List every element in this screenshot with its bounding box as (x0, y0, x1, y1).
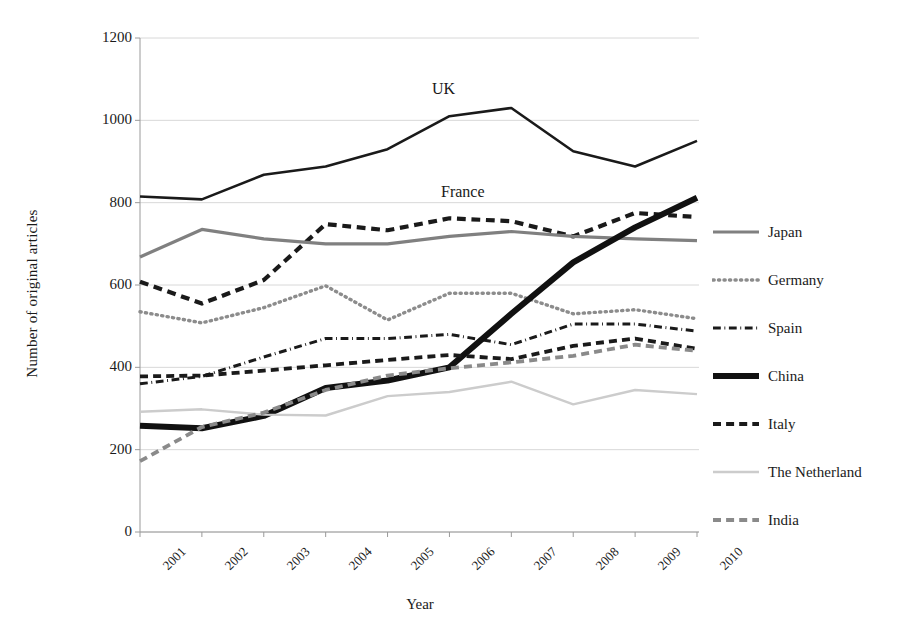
legend-item[interactable]: Japan (712, 208, 908, 256)
legend-item[interactable]: Italy (712, 400, 908, 448)
annotation-uk: UK (432, 80, 455, 98)
y-axis-tick-labels: 020040060080010001200 (70, 0, 132, 643)
series-line-japan (140, 229, 697, 257)
legend-label: India (768, 512, 799, 529)
legend-line-icon (712, 321, 760, 335)
line-chart: Number of original articles 020040060080… (0, 0, 910, 643)
legend-line-icon (712, 513, 760, 527)
legend-label: China (768, 368, 804, 385)
legend-line-icon (712, 417, 760, 431)
legend-label: Spain (768, 320, 802, 337)
y-tick-label: 1000 (78, 111, 132, 128)
y-tick-label: 400 (78, 358, 132, 375)
legend-item[interactable]: The Netherland (712, 448, 908, 496)
legend-line-icon (712, 273, 760, 287)
series-line-india (140, 345, 697, 462)
legend-item[interactable]: India (712, 496, 908, 544)
annotation-france: France (441, 183, 485, 201)
chart-legend: JapanGermanySpainChinaItalyThe Netherlan… (712, 208, 908, 544)
legend-line-icon (712, 465, 760, 479)
series-line-uk (140, 108, 697, 199)
legend-item[interactable]: Germany (712, 256, 908, 304)
series-line-germany (140, 286, 697, 323)
legend-label: Germany (768, 272, 824, 289)
legend-line-icon (712, 225, 760, 239)
legend-line-icon (712, 369, 760, 383)
x-axis-title: Year (140, 596, 700, 613)
y-axis-title: Number of original articles (24, 144, 41, 444)
y-tick-label: 600 (78, 276, 132, 293)
y-tick-label: 0 (78, 523, 132, 540)
y-tick-label: 800 (78, 194, 132, 211)
series-line-the-netherland (140, 382, 697, 416)
y-tick-label: 1200 (78, 29, 132, 46)
legend-label: The Netherland (768, 464, 862, 481)
legend-label: Japan (768, 224, 802, 241)
legend-item[interactable]: Spain (712, 304, 908, 352)
series-line-france (140, 213, 697, 304)
legend-label: Italy (768, 416, 796, 433)
legend-item[interactable]: China (712, 352, 908, 400)
y-tick-label: 200 (78, 441, 132, 458)
